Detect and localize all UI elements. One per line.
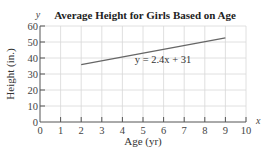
y-tick-label: 0 [33, 117, 38, 128]
y-axis-label: Height (in.) [4, 48, 17, 100]
y-tick-label: 50 [28, 37, 39, 48]
y-tick-label: 20 [28, 85, 39, 96]
x-tick-label: 0 [37, 125, 42, 136]
x-tick-label: 6 [161, 125, 166, 136]
x-tick-label: 7 [182, 125, 187, 136]
x-tick-label: 10 [241, 125, 252, 136]
x-tick-label: 5 [140, 125, 145, 136]
x-tick-label: 9 [223, 125, 228, 136]
x-tick-label: 3 [99, 125, 104, 136]
equation-annotation: y = 2.4x + 31 [135, 54, 191, 65]
y-tick-label: 10 [28, 101, 39, 112]
y-tick-labels: 0102030405060 [28, 21, 39, 128]
x-tick-label: 4 [120, 125, 126, 136]
chart-title: Average Height for Girls Based on Age [54, 9, 236, 21]
y-tick-label: 30 [28, 69, 39, 80]
y-tick-label: 40 [28, 53, 39, 64]
x-tick-labels: 012345678910 [37, 125, 251, 136]
chart: y Average Height for Girls Based on Age … [0, 0, 266, 157]
y-axis-variable: y [35, 9, 41, 20]
x-tick-label: 1 [58, 125, 63, 136]
x-tick-label: 8 [202, 125, 207, 136]
x-tick-label: 2 [79, 125, 84, 136]
y-tick-label: 60 [28, 21, 39, 32]
x-axis-label: Age (yr) [124, 135, 162, 148]
x-axis-variable: x [255, 115, 261, 126]
